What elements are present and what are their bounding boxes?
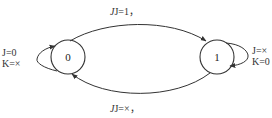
state-1-label: 1 [214,51,220,63]
transition-1-to-0: JJ=×， [72,73,210,114]
state-diagram: 0 1 JJ=1， JJ=×， J=0 K=× J=× K=0 [0,0,272,118]
transition-0-to-1-label: JJ=1， [110,6,139,17]
arrow-self-loop-1 [226,43,248,66]
state-0-label: 0 [65,51,71,63]
self-loop-0: J=0 K=× [2,46,57,71]
arrow-0-to-1 [70,24,206,41]
self-loop-1-k-label: K=0 [252,56,270,67]
self-loop-1-j-label: J=× [252,45,267,56]
state-0: 0 [51,40,85,74]
transition-0-to-1: JJ=1， [70,6,206,41]
state-1: 1 [200,40,234,74]
arrow-1-to-0 [72,73,210,93]
transition-1-to-0-label: JJ=×， [110,103,140,114]
self-loop-0-j-label: J=0 [2,47,17,58]
self-loop-0-k-label: K=× [2,58,21,69]
